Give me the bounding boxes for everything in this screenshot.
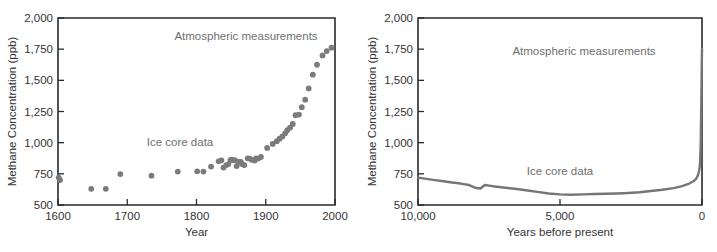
left-y-axis-title: Methane Concentration (ppb) <box>6 37 18 187</box>
left-xticklabel-1800: 1800 <box>184 210 210 222</box>
right-xticklabel-5000: 5,000 <box>546 210 575 222</box>
methane-concentration-figure: 500 750 1,000 1,250 1,500 1,750 2,000 16… <box>0 0 717 252</box>
data-point <box>306 86 312 92</box>
right-chart-svg: 500 750 1,000 1,250 1,500 1,750 2,000 10… <box>360 0 717 252</box>
left-x-axis-title: Year <box>185 226 208 238</box>
left-chart-svg: 500 750 1,000 1,250 1,500 1,750 2,000 16… <box>0 0 360 252</box>
right-yticklabel-2000: 2,000 <box>384 12 413 24</box>
data-point <box>320 53 326 59</box>
left-yticklabel-2000: 2,000 <box>24 12 53 24</box>
right-yticklabel-1500: 1,500 <box>384 74 413 86</box>
data-point <box>241 162 247 168</box>
left-yticklabel-1750: 1,750 <box>24 43 53 55</box>
right-x-ticks <box>418 199 702 205</box>
left-yticklabel-1250: 1,250 <box>24 106 53 118</box>
data-point <box>208 164 214 170</box>
data-point <box>299 104 305 110</box>
right-yticklabel-1000: 1,000 <box>384 137 413 149</box>
right-y-ticklabels: 500 750 1,000 1,250 1,500 1,750 2,000 <box>384 12 413 211</box>
left-xticklabel-2000: 2000 <box>322 210 348 222</box>
left-x-ticklabels: 1600 1700 1800 1900 2000 <box>45 210 348 222</box>
right-xticklabel-10000: 10,000 <box>400 210 435 222</box>
left-plot-frame <box>58 18 335 205</box>
data-point <box>88 186 94 192</box>
right-x-axis-title: Years before present <box>507 226 614 238</box>
data-point <box>264 145 270 151</box>
data-point <box>175 169 181 175</box>
left-annotation-icecore: Ice core data <box>147 136 214 148</box>
left-xticklabel-1700: 1700 <box>114 210 140 222</box>
data-point <box>324 48 330 54</box>
right-annotation-icecore: Ice core data <box>527 165 594 177</box>
data-point <box>194 168 200 174</box>
left-xticklabel-1900: 1900 <box>253 210 279 222</box>
left-annotation-atmospheric: Atmospheric measurements <box>174 30 317 42</box>
left-yticklabel-750: 750 <box>34 168 53 180</box>
data-point <box>310 72 316 78</box>
chart-panel-right: 500 750 1,000 1,250 1,500 1,750 2,000 10… <box>360 0 717 252</box>
data-point <box>290 121 296 127</box>
right-yticklabel-1250: 1,250 <box>384 106 413 118</box>
left-yticklabel-1000: 1,000 <box>24 137 53 149</box>
data-point <box>201 169 207 175</box>
left-y-ticklabels: 500 750 1,000 1,250 1,500 1,750 2,000 <box>24 12 53 211</box>
left-scatter-points <box>56 45 335 192</box>
right-xticklabel-0: 0 <box>699 210 705 222</box>
right-yticklabel-1750: 1,750 <box>384 43 413 55</box>
data-point <box>219 157 225 163</box>
data-point <box>302 97 308 103</box>
data-point <box>149 173 155 179</box>
left-x-ticks <box>58 199 335 205</box>
data-point <box>258 154 264 160</box>
right-y-axis-title: Methane Concentration (ppb) <box>366 37 378 187</box>
data-point <box>57 177 63 183</box>
data-point <box>296 112 302 118</box>
right-annotation-atmospheric: Atmospheric measurements <box>512 45 655 57</box>
left-yticklabel-1500: 1,500 <box>24 74 53 86</box>
data-point <box>314 62 320 68</box>
left-xticklabel-1600: 1600 <box>45 210 71 222</box>
data-point <box>329 45 335 51</box>
data-point <box>117 171 123 177</box>
right-yticklabel-750: 750 <box>394 168 413 180</box>
data-point <box>103 186 109 192</box>
right-x-ticklabels: 10,000 5,000 0 <box>400 210 705 222</box>
chart-panel-left: 500 750 1,000 1,250 1,500 1,750 2,000 16… <box>0 0 360 252</box>
